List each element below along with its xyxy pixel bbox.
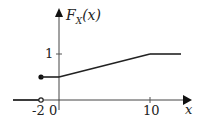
y-label-base: F [66, 7, 76, 23]
open-point [39, 98, 43, 102]
x-tick-label-0: 0 [49, 104, 57, 117]
y-label-arg: (x) [82, 7, 101, 23]
y-axis-arrow-icon [55, 8, 63, 17]
x-tick-label-10: 10 [143, 104, 160, 117]
cdf-segment-rise [59, 54, 150, 77]
x-axis-label: x [185, 103, 192, 116]
y-tick-label-1: 1 [45, 47, 53, 60]
x-tick-label-neg2: -2 [32, 104, 45, 117]
y-axis-label: FX(x) [66, 8, 101, 26]
